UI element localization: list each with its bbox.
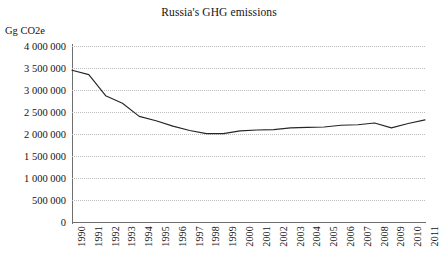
x-axis-tick-label: 2006 (345, 226, 356, 247)
x-axis-tick-label: 1990 (76, 226, 87, 247)
x-axis-tick-label: 1994 (143, 226, 154, 247)
x-axis-tick-label: 2010 (412, 226, 423, 247)
x-axis-tick-label: 1997 (194, 226, 205, 247)
y-axis-tick-label: 2 000 000 (24, 129, 66, 140)
chart-title: Russia's GHG emissions (0, 6, 438, 18)
plot-area (72, 46, 425, 222)
x-axis-tick-label: 2011 (429, 226, 440, 246)
x-axis-tick-label: 2007 (362, 226, 373, 247)
x-axis-tick-label: 2001 (261, 226, 272, 247)
y-axis-tick-label: 0 (61, 217, 66, 228)
x-axis-line (72, 222, 426, 223)
x-axis-tick-label: 1996 (177, 226, 188, 247)
x-axis-tick-label: 1995 (160, 226, 171, 247)
y-axis-tick-label: 4 000 000 (24, 41, 66, 52)
x-axis-tick-label: 2005 (328, 226, 339, 247)
series-line-russia-ghg-emissions (72, 46, 425, 222)
y-axis-tick-label: 1 000 000 (24, 173, 66, 184)
y-axis-tick-label: 3 500 000 (24, 63, 66, 74)
x-axis-tick-label: 1991 (93, 226, 104, 247)
x-axis-tick-label: 1998 (210, 226, 221, 247)
x-axis-tick-label: 2003 (295, 226, 306, 247)
y-axis-unit-label: Gg CO2e (5, 25, 45, 36)
x-axis-tick-label: 1993 (126, 226, 137, 247)
x-axis-tick-label: 2002 (278, 226, 289, 247)
y-axis-tick-label: 2 500 000 (24, 107, 66, 118)
x-axis-tick-label: 2008 (379, 226, 390, 247)
x-axis-tick-label: 2004 (311, 226, 322, 247)
y-axis-tick-label: 1 500 000 (24, 151, 66, 162)
y-axis-tick-label: 3 000 000 (24, 85, 66, 96)
x-axis-tick-label: 2000 (244, 226, 255, 247)
y-axis-tick-label: 500 000 (32, 195, 66, 206)
x-axis-tick-label: 2009 (395, 226, 406, 247)
x-axis-tick-label: 1992 (110, 226, 121, 247)
x-axis-tick-label: 1999 (227, 226, 238, 247)
